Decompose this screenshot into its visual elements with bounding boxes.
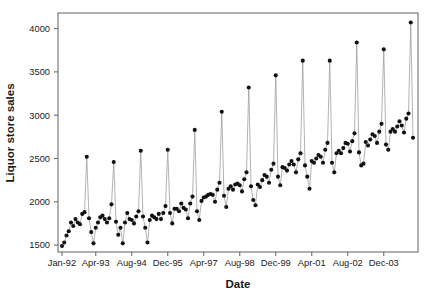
data-point: [195, 209, 199, 213]
data-point: [224, 205, 228, 209]
data-point: [64, 234, 68, 238]
chart-series: [60, 20, 415, 248]
data-point: [188, 201, 192, 205]
y-tick-label: 2000: [29, 197, 50, 207]
data-point: [78, 222, 82, 226]
data-point: [193, 128, 197, 132]
data-point: [231, 188, 235, 192]
x-tick-label: Aug-02: [333, 258, 363, 268]
data-point: [386, 148, 390, 152]
data-point: [154, 217, 158, 221]
data-point: [240, 189, 244, 193]
data-point: [267, 181, 271, 185]
data-point: [366, 143, 370, 147]
data-point: [321, 161, 325, 165]
data-point: [179, 201, 183, 205]
data-point: [375, 141, 379, 145]
y-tick-label: 3500: [29, 67, 50, 77]
data-point: [247, 85, 251, 89]
data-point: [69, 221, 73, 225]
data-point: [190, 195, 194, 199]
data-point: [325, 141, 329, 145]
x-tick-label: Dec-95: [153, 258, 183, 268]
data-point: [373, 134, 377, 138]
data-point: [260, 178, 264, 182]
x-tick-label: Aug-94: [117, 258, 147, 268]
data-point: [348, 150, 352, 154]
data-point: [134, 214, 138, 218]
data-point: [132, 221, 136, 225]
data-point: [242, 177, 246, 181]
data-point: [116, 233, 120, 237]
data-point: [406, 111, 410, 115]
data-point: [199, 199, 203, 203]
data-point: [96, 221, 100, 225]
data-point: [384, 143, 388, 147]
data-point: [357, 150, 361, 154]
data-point: [319, 155, 323, 159]
series-line: [62, 23, 413, 246]
data-point: [395, 124, 399, 128]
data-point: [397, 119, 401, 123]
liquor-store-sales-chart: 150020002500300035004000 Jan-92Apr-93Aug…: [0, 0, 433, 297]
data-point: [184, 208, 188, 212]
data-point: [355, 40, 359, 44]
data-point: [163, 204, 167, 208]
data-point: [197, 218, 201, 222]
data-point: [105, 221, 109, 225]
data-point: [292, 162, 296, 166]
data-point: [332, 170, 336, 174]
data-point: [89, 230, 93, 234]
data-point: [123, 221, 127, 225]
data-point: [211, 193, 215, 197]
x-tick-label: Dec-99: [261, 258, 291, 268]
data-point: [220, 110, 224, 114]
data-point: [238, 183, 242, 187]
data-point: [130, 218, 134, 222]
data-point: [368, 137, 372, 141]
data-point: [168, 211, 172, 215]
data-point: [402, 130, 406, 134]
data-point: [303, 163, 307, 167]
data-point: [323, 148, 327, 152]
data-point: [91, 241, 95, 245]
x-axis-title: Date: [226, 278, 251, 290]
data-point: [269, 168, 273, 172]
data-point: [382, 47, 386, 51]
chart-axes: 150020002500300035004000 Jan-92Apr-93Aug…: [29, 13, 418, 268]
data-point: [85, 155, 89, 159]
data-point: [339, 151, 343, 155]
data-point: [312, 161, 316, 165]
data-point: [125, 211, 129, 215]
data-point: [274, 73, 278, 77]
data-point: [341, 146, 345, 150]
data-point: [330, 161, 334, 165]
data-point: [352, 131, 356, 135]
y-tick-label: 2500: [29, 154, 50, 164]
data-point: [159, 217, 163, 221]
data-point: [400, 124, 404, 128]
data-point: [170, 221, 174, 225]
data-point: [215, 188, 219, 192]
data-point: [265, 175, 269, 179]
data-point: [177, 209, 181, 213]
data-point: [229, 184, 233, 188]
data-point: [271, 162, 275, 166]
data-point: [166, 148, 170, 152]
data-point: [139, 149, 143, 153]
x-tick-label: Apr-97: [190, 258, 218, 268]
data-point: [278, 183, 282, 187]
data-point: [305, 175, 309, 179]
data-point: [82, 210, 86, 214]
x-axis-ticks: Jan-92Apr-93Aug-94Dec-95Apr-97Aug-98Dec-…: [48, 252, 399, 268]
y-tick-label: 3000: [29, 111, 50, 121]
data-point: [213, 200, 217, 204]
data-point: [118, 226, 122, 230]
data-point: [222, 194, 226, 198]
y-tick-label: 4000: [29, 24, 50, 34]
x-tick-label: Jan-92: [48, 258, 76, 268]
data-point: [298, 151, 302, 155]
data-point: [258, 185, 262, 189]
data-point: [287, 162, 291, 166]
data-point: [136, 209, 140, 213]
